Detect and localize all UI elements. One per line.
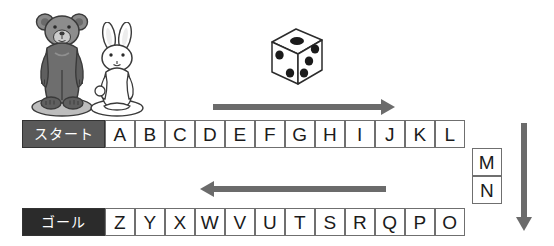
cell-e[interactable]: E: [225, 120, 255, 148]
cell-f[interactable]: F: [255, 120, 285, 148]
cell-y[interactable]: Y: [135, 208, 165, 236]
board-game-illustration: スタートABCDEFGHIJKLMNゴールZYXWVUTSRQPO: [0, 0, 554, 246]
cell-x[interactable]: X: [165, 208, 195, 236]
cell-l[interactable]: L: [435, 120, 465, 148]
cell-r[interactable]: R: [345, 208, 375, 236]
cell-p[interactable]: P: [405, 208, 435, 236]
cell-b[interactable]: B: [135, 120, 165, 148]
rabbit-token: [84, 22, 150, 118]
cell-k[interactable]: K: [405, 120, 435, 148]
cell-a[interactable]: A: [105, 120, 135, 148]
cell-start[interactable]: スタート: [22, 120, 105, 148]
cell-goal[interactable]: ゴール: [22, 208, 105, 236]
cell-h[interactable]: H: [315, 120, 345, 148]
cell-v[interactable]: V: [225, 208, 255, 236]
cell-j[interactable]: J: [375, 120, 405, 148]
cell-u[interactable]: U: [255, 208, 285, 236]
cell-n[interactable]: N: [472, 176, 502, 204]
cell-m[interactable]: M: [472, 148, 502, 176]
cell-o[interactable]: O: [435, 208, 465, 236]
cell-i[interactable]: I: [345, 120, 375, 148]
cell-t[interactable]: T: [285, 208, 315, 236]
cell-z[interactable]: Z: [105, 208, 135, 236]
cell-g[interactable]: G: [285, 120, 315, 148]
cell-c[interactable]: C: [165, 120, 195, 148]
cell-s[interactable]: S: [315, 208, 345, 236]
cell-w[interactable]: W: [195, 208, 225, 236]
dice-icon: [262, 24, 332, 90]
cell-d[interactable]: D: [195, 120, 225, 148]
cell-q[interactable]: Q: [375, 208, 405, 236]
